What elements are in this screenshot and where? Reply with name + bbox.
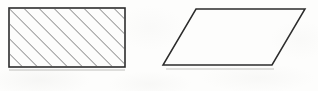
shapes-drawing — [0, 0, 318, 91]
scan-artifacts — [9, 68, 274, 71]
figure-canvas — [0, 0, 318, 91]
shape-open-parallelogram[interactable] — [163, 9, 305, 65]
hatched-rectangle-fill — [10, 9, 124, 66]
shape-hatched-rectangle[interactable] — [9, 8, 125, 67]
smudge-under-parallelogram — [166, 68, 274, 70]
smudge-under-rectangle — [9, 69, 125, 71]
open-parallelogram-outline — [163, 9, 305, 65]
